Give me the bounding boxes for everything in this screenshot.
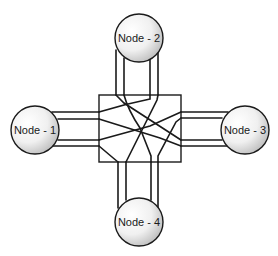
node-4[interactable]: Node - 4	[115, 198, 163, 246]
node-2[interactable]: Node - 2	[115, 14, 163, 62]
node-3-label: Node - 3	[224, 124, 266, 136]
node-4-label: Node - 4	[118, 216, 160, 228]
node-3[interactable]: Node - 3	[221, 106, 269, 154]
node-1[interactable]: Node - 1	[11, 106, 59, 154]
interconnect-diagram: Node - 2 Node - 1 Node - 3 Node - 4	[0, 0, 278, 256]
crossbar-connections	[99, 95, 181, 162]
node-1-label: Node - 1	[14, 124, 56, 136]
node-2-label: Node - 2	[118, 32, 160, 44]
